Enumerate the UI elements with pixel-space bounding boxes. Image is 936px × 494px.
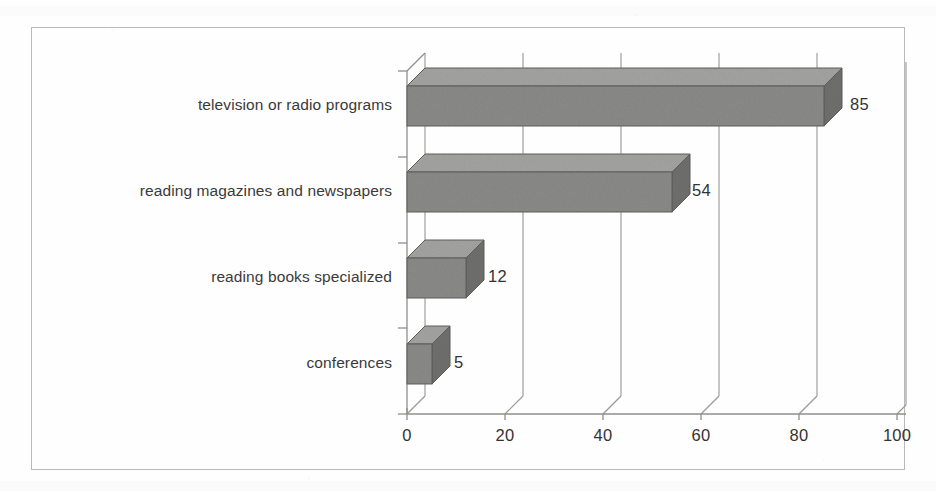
data-label-0: 85 [850, 95, 869, 114]
xtick-label-100: 100 [873, 426, 921, 445]
bar-front-face [407, 258, 466, 298]
bar-front-face [407, 344, 432, 384]
bar-top-face [407, 68, 842, 86]
gridline-riser-60 [701, 396, 719, 414]
gridline-riser-80 [799, 396, 817, 414]
data-label-1: 54 [692, 181, 711, 200]
data-label-2: 12 [488, 267, 507, 286]
scan-smudge-bottom [0, 481, 936, 491]
gridline-riser-40 [603, 396, 621, 414]
bar-reading-magazines-and-newspapers [407, 154, 690, 212]
chart-3d-artwork [32, 28, 906, 471]
xtick-label-80: 80 [779, 426, 819, 445]
bar-front-face [407, 86, 824, 126]
category-label-2: reading books specialized [211, 268, 392, 286]
gridline-riser-100 [897, 405, 906, 414]
xtick-label-0: 0 [387, 426, 427, 445]
scan-smudge-top [0, 6, 936, 16]
bar-front-face [407, 172, 672, 212]
chart-plot-area: television or radio programs reading mag… [32, 28, 904, 469]
xtick-label-40: 40 [583, 426, 623, 445]
category-label-0: television or radio programs [198, 96, 392, 114]
xtick-label-20: 20 [485, 426, 525, 445]
category-axis-depth-riser [407, 53, 425, 71]
page-background: television or radio programs reading mag… [0, 0, 936, 494]
data-label-3: 5 [454, 353, 463, 372]
bar-television-or-radio-programs [407, 68, 842, 126]
bar-reading-books-specialized [407, 240, 484, 298]
gridline-riser-20 [505, 396, 523, 414]
bar-conferences [407, 326, 450, 384]
category-label-1: reading magazines and newspapers [140, 182, 392, 200]
value-axis-group [407, 408, 906, 420]
category-label-3: conferences [306, 354, 392, 372]
chart-frame: television or radio programs reading mag… [31, 27, 905, 470]
xtick-label-60: 60 [681, 426, 721, 445]
gridline-riser-0 [407, 396, 425, 414]
bar-top-face [407, 154, 690, 172]
